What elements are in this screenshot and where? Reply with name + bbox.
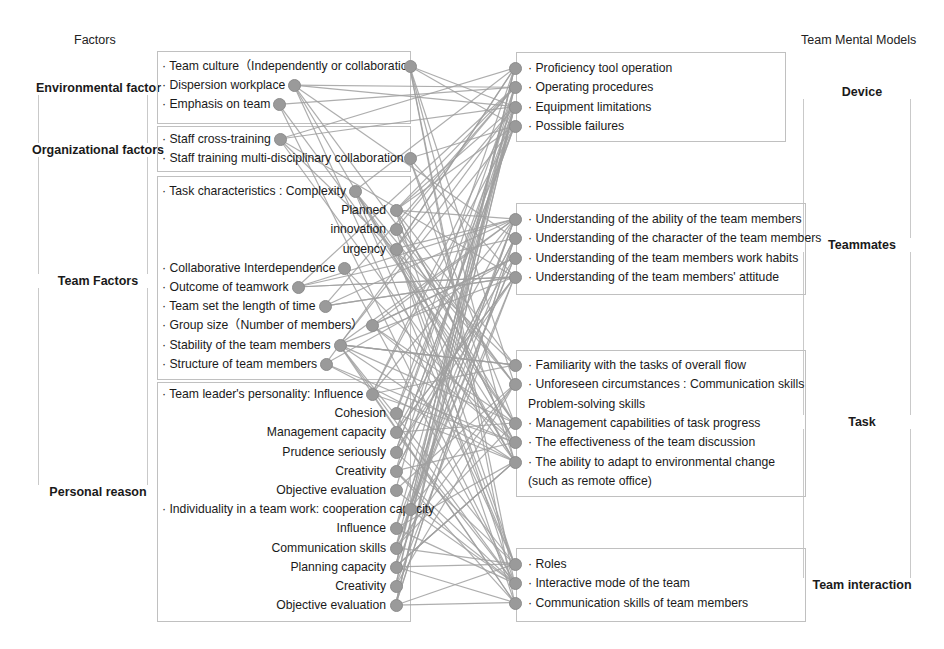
list-item: · Familiarity with the tasks of overall … (528, 359, 746, 372)
right-group-label-interaction: Team interaction (797, 578, 927, 592)
list-item: · Stability of the team members (162, 339, 331, 352)
graph-node (390, 542, 403, 555)
graph-node (509, 271, 522, 284)
left-group-label-personal: Personal reason (35, 485, 161, 499)
list-item: · Structure of team members (162, 358, 317, 371)
graph-node (390, 580, 403, 593)
list-item: · Staff training multi-disciplinary coll… (162, 152, 404, 165)
graph-node (292, 281, 305, 294)
list-item: Management capacity (162, 426, 386, 439)
list-item: Objective evaluation (162, 599, 386, 612)
list-item: innovation (162, 223, 386, 236)
graph-node (390, 561, 403, 574)
list-item: · Collaborative Interdependence (162, 262, 335, 275)
list-item: · Understanding of the character of the … (528, 232, 821, 245)
graph-node (509, 417, 522, 430)
graph-node (509, 62, 522, 75)
list-item: Communication skills (162, 542, 386, 555)
right-group-bracket (803, 92, 911, 587)
graph-node (390, 446, 403, 459)
list-item: · Team leader's personality: Influence (162, 388, 363, 401)
graph-node (274, 133, 287, 146)
list-item: Planned (162, 204, 386, 217)
list-item: Planning capacity (162, 561, 386, 574)
list-item: Creativity (162, 580, 386, 593)
list-item: Creativity (162, 465, 386, 478)
list-item: · The effectiveness of the team discussi… (528, 436, 755, 449)
right-group-label-device: Device (803, 85, 921, 99)
graph-node (509, 252, 522, 265)
graph-node (509, 213, 522, 226)
graph-node (390, 484, 403, 497)
graph-node (390, 243, 403, 256)
left-group-label-organizational: Organizational factors (25, 143, 171, 157)
list-item: · The ability to adapt to environmental … (528, 456, 775, 469)
list-item: · Understanding of the team members work… (528, 252, 798, 265)
list-item: · Dispersion workplace (162, 79, 285, 92)
left-group-label-environmental: Environmental factor (30, 81, 166, 95)
list-item: · Unforeseen circumstances : Communicati… (528, 378, 804, 391)
list-item: · Possible failures (528, 120, 624, 133)
list-item: Objective evaluation (162, 484, 386, 497)
list-item: · Outcome of teamwork (162, 281, 289, 294)
list-item: · Communication skills of team members (528, 597, 748, 610)
list-item: · Proficiency tool operation (528, 62, 672, 75)
graph-node (509, 101, 522, 114)
list-item: · Team set the length of time (162, 300, 316, 313)
list-item: · Understanding of the ability of the te… (528, 213, 802, 226)
graph-node (334, 339, 347, 352)
list-item: Influence (162, 522, 386, 535)
list-item: Prudence seriously (162, 446, 386, 459)
graph-node (319, 300, 332, 313)
list-item: · Understanding of the team members' att… (528, 271, 779, 284)
list-item: · Interactive mode of the team (528, 577, 690, 590)
graph-node (404, 152, 417, 165)
graph-node (349, 185, 362, 198)
list-item: · Team culture（Independently or collabor… (162, 60, 414, 73)
list-item: urgency (162, 243, 386, 256)
list-item: Problem-solving skills (528, 398, 645, 411)
list-item: · Equipment limitations (528, 101, 651, 114)
graph-node (509, 359, 522, 372)
list-item: · Individuality in a team work: cooperat… (162, 503, 434, 516)
left-column-header: Factors (74, 33, 116, 47)
graph-node (509, 558, 522, 571)
list-item: · Operating procedures (528, 81, 653, 94)
left-group-label-team: Team Factors (38, 274, 158, 288)
graph-node (509, 597, 522, 610)
list-item: · Group size（Number of members） (162, 319, 363, 332)
list-item: · Management capabilities of task progre… (528, 417, 760, 430)
graph-node (509, 120, 522, 133)
diagram-canvas: Factors Team Mental Models Environmental… (0, 0, 944, 649)
graph-node (390, 465, 403, 478)
list-item: · Task characteristics : Complexity (162, 185, 346, 198)
list-item: Cohesion (162, 407, 386, 420)
graph-node (404, 60, 417, 73)
graph-node (320, 358, 333, 371)
right-column-header: Team Mental Models (801, 33, 916, 47)
right-group-label-task: Task (803, 415, 921, 429)
list-item: · Staff cross-training (162, 133, 271, 146)
list-item: · Emphasis on team (162, 98, 270, 111)
list-item: (such as remote office) (528, 475, 652, 488)
list-item: · Roles (528, 558, 567, 571)
graph-node (509, 456, 522, 469)
